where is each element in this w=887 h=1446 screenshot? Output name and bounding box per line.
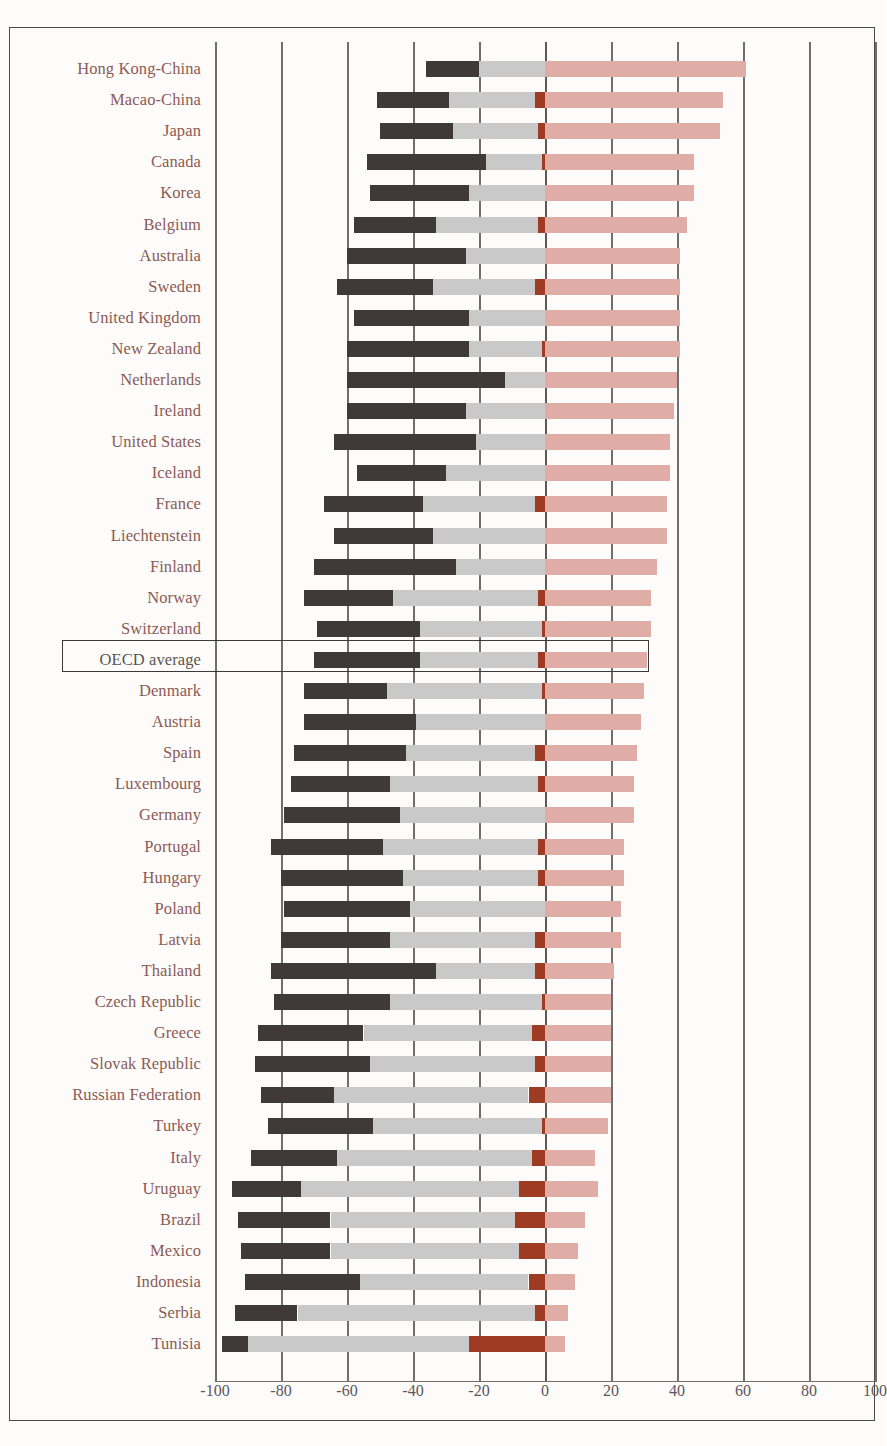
bar-row[interactable]: Netherlands	[215, 364, 875, 395]
bar-row[interactable]: Denmark	[215, 675, 875, 706]
row-label-oecd-average: OECD average	[0, 644, 201, 675]
bar-row[interactable]: Tunisia	[215, 1328, 875, 1359]
bar-row[interactable]: Greece	[215, 1017, 875, 1048]
segment-negative-outer	[271, 963, 436, 979]
segment-positive-outer	[545, 1274, 575, 1290]
stacked-bar	[215, 1056, 875, 1072]
stacked-bar	[215, 932, 875, 948]
segment-negative-inner	[416, 714, 545, 730]
segment-negative-outer	[337, 279, 433, 295]
bar-row[interactable]: Brazil	[215, 1204, 875, 1235]
segment-negative-inner	[331, 1243, 519, 1259]
row-label-new-zealand: New Zealand	[0, 333, 201, 364]
row-label-denmark: Denmark	[0, 675, 201, 706]
bar-row[interactable]: Canada	[215, 146, 875, 177]
bar-row[interactable]: Australia	[215, 240, 875, 271]
segment-positive-outer	[545, 279, 680, 295]
segment-positive-outer	[545, 1336, 565, 1352]
row-label-canada: Canada	[0, 146, 201, 177]
stacked-bar	[215, 185, 875, 201]
bar-row[interactable]: Russian Federation	[215, 1079, 875, 1110]
bar-row[interactable]: Poland	[215, 893, 875, 924]
segment-negative-outer	[284, 901, 409, 917]
segment-positive-inner	[519, 1243, 545, 1259]
bar-row[interactable]: Japan	[215, 115, 875, 146]
bar-row[interactable]: Norway	[215, 582, 875, 613]
segment-negative-outer	[314, 559, 456, 575]
bar-row[interactable]: Indonesia	[215, 1266, 875, 1297]
stacked-bar	[215, 496, 875, 512]
bar-row[interactable]: Sweden	[215, 271, 875, 302]
bar-row[interactable]: Slovak Republic	[215, 1048, 875, 1079]
bar-row[interactable]: Portugal	[215, 831, 875, 862]
row-label-iceland: Iceland	[0, 457, 201, 488]
bar-row[interactable]: Macao-China	[215, 84, 875, 115]
stacked-bar	[215, 1243, 875, 1259]
bar-row[interactable]: Thailand	[215, 955, 875, 986]
segment-positive-outer	[545, 1181, 598, 1197]
bar-row[interactable]: Ireland	[215, 395, 875, 426]
bar-row[interactable]: Switzerland	[215, 613, 875, 644]
bar-row[interactable]: Germany	[215, 799, 875, 830]
bar-row[interactable]: United States	[215, 426, 875, 457]
stacked-bar	[215, 994, 875, 1010]
segment-positive-outer	[545, 185, 694, 201]
bar-row[interactable]: France	[215, 488, 875, 519]
segment-positive-outer	[545, 61, 746, 77]
bar-row[interactable]: Belgium	[215, 209, 875, 240]
bar-row[interactable]: Korea	[215, 177, 875, 208]
bar-row[interactable]: Turkey	[215, 1110, 875, 1141]
row-label-united-kingdom: United Kingdom	[0, 302, 201, 333]
stacked-bar	[215, 807, 875, 823]
bar-row[interactable]: Iceland	[215, 457, 875, 488]
bar-row[interactable]: Luxembourg	[215, 768, 875, 799]
bar-row[interactable]: Italy	[215, 1142, 875, 1173]
row-label-italy: Italy	[0, 1142, 201, 1173]
bar-row[interactable]: Serbia	[215, 1297, 875, 1328]
segment-positive-outer	[545, 932, 621, 948]
bar-row[interactable]: United Kingdom	[215, 302, 875, 333]
row-label-austria: Austria	[0, 706, 201, 737]
segment-negative-inner	[360, 1274, 528, 1290]
segment-negative-inner	[433, 528, 545, 544]
bar-row[interactable]: Spain	[215, 737, 875, 768]
bar-row[interactable]: Austria	[215, 706, 875, 737]
row-label-sweden: Sweden	[0, 271, 201, 302]
segment-positive-inner	[538, 652, 545, 668]
segment-negative-inner	[406, 745, 535, 761]
segment-negative-outer	[354, 310, 470, 326]
stacked-bar	[215, 123, 875, 139]
segment-positive-outer	[545, 559, 657, 575]
bar-row[interactable]: Uruguay	[215, 1173, 875, 1204]
bar-row[interactable]: Finland	[215, 551, 875, 582]
bar-row[interactable]: Hong Kong-China	[215, 53, 875, 84]
segment-positive-outer	[545, 745, 637, 761]
segment-negative-outer	[255, 1056, 371, 1072]
row-label-belgium: Belgium	[0, 209, 201, 240]
bar-row[interactable]: New Zealand	[215, 333, 875, 364]
bar-row[interactable]: Hungary	[215, 862, 875, 893]
row-label-czech-republic: Czech Republic	[0, 986, 201, 1017]
segment-positive-inner	[538, 870, 545, 886]
stacked-bar	[215, 61, 875, 77]
row-label-poland: Poland	[0, 893, 201, 924]
segment-positive-outer	[545, 1056, 611, 1072]
stacked-bar	[215, 1181, 875, 1197]
row-label-portugal: Portugal	[0, 831, 201, 862]
segment-negative-outer	[241, 1243, 330, 1259]
stacked-bar	[215, 1025, 875, 1041]
bar-row[interactable]: OECD average	[215, 644, 875, 675]
segment-negative-outer	[235, 1305, 298, 1321]
segment-positive-outer	[545, 528, 667, 544]
bar-row[interactable]: Liechtenstein	[215, 520, 875, 551]
row-label-netherlands: Netherlands	[0, 364, 201, 395]
bar-row[interactable]: Latvia	[215, 924, 875, 955]
segment-negative-inner	[476, 434, 545, 450]
bar-row[interactable]: Mexico	[215, 1235, 875, 1266]
segment-negative-inner	[456, 559, 545, 575]
x-tick-label-80: 80	[801, 1382, 817, 1400]
segment-positive-outer	[545, 434, 670, 450]
row-label-thailand: Thailand	[0, 955, 201, 986]
bar-row[interactable]: Czech Republic	[215, 986, 875, 1017]
segment-positive-inner	[535, 1056, 545, 1072]
